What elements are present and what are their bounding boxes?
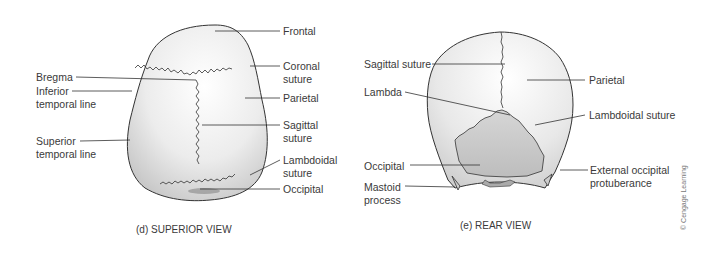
label-superior-temporal-line: Superior temporal line — [36, 135, 96, 160]
label-coronal-line2: suture — [283, 73, 320, 86]
rear-view-skull — [427, 32, 573, 190]
label-sagittal-suture-superior: Sagittal suture — [283, 119, 318, 144]
label-lambdoidal-line2: suture — [283, 167, 337, 180]
label-parietal-superior: Parietal — [283, 92, 319, 105]
label-coronal-suture: Coronal suture — [283, 60, 320, 85]
label-superior-line1: Superior — [36, 135, 96, 148]
label-superior-line2: temporal line — [36, 148, 96, 161]
label-mastoid-line2: process — [364, 194, 401, 207]
superior-view-skull — [127, 25, 267, 201]
label-bregma: Bregma — [36, 71, 73, 84]
label-sagittal-line1: Sagittal — [283, 119, 318, 132]
skull-outline-superior — [127, 25, 267, 201]
copyright-credit: © Cengage Learning — [680, 165, 687, 230]
label-sagittal-suture-rear: Sagittal suture — [364, 58, 431, 71]
label-inferior-line1: Inferior — [36, 85, 96, 98]
label-parietal-rear: Parietal — [589, 74, 625, 87]
caption-rear-view: (e) REAR VIEW — [460, 220, 531, 231]
label-inferior-temporal-line: Inferior temporal line — [36, 85, 96, 110]
label-lambdoidal-line1: Lambdoidal — [283, 154, 337, 167]
caption-superior-view: (d) SUPERIOR VIEW — [136, 224, 232, 235]
label-coronal-line1: Coronal — [283, 60, 320, 73]
label-occipital-rear: Occipital — [364, 160, 404, 173]
skull-illustrations — [0, 0, 710, 253]
label-lambda: Lambda — [364, 86, 402, 99]
label-lambdoidal-suture-rear: Lambdoidal suture — [589, 109, 675, 122]
label-inferior-line2: temporal line — [36, 98, 96, 111]
label-occipital-superior: Occipital — [283, 183, 323, 196]
label-frontal: Frontal — [283, 25, 316, 38]
label-ext-occ-line2: protuberance — [590, 177, 669, 190]
label-ext-occ-line1: External occipital — [590, 164, 669, 177]
label-mastoid-process: Mastoid process — [364, 181, 401, 206]
label-external-occipital-protuberance: External occipital protuberance — [590, 164, 669, 189]
label-mastoid-line1: Mastoid — [364, 181, 401, 194]
label-sagittal-line2: suture — [283, 132, 318, 145]
label-lambdoidal-suture-superior: Lambdoidal suture — [283, 154, 337, 179]
